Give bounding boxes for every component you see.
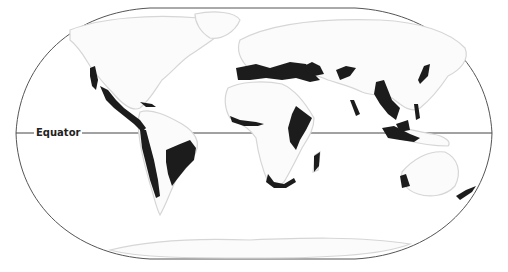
equator-label: Equator — [34, 127, 82, 139]
antarctica — [110, 238, 410, 258]
region-western-ghats — [350, 100, 360, 116]
region-new-zealand — [456, 186, 476, 200]
australia — [402, 152, 459, 196]
